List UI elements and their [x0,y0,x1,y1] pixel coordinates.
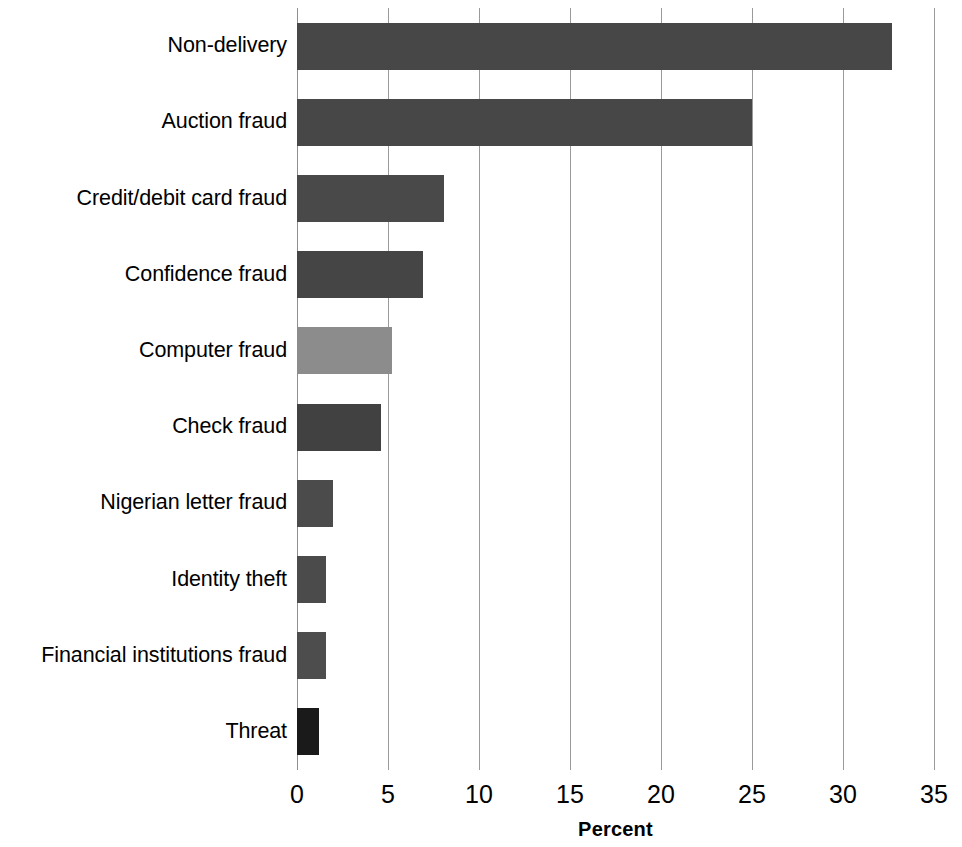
x-axis-tick-labels: 05101520253035 [297,782,934,816]
category-label: Credit/debit card fraud [2,186,287,211]
category-label: Check fraud [2,414,287,439]
category-label: Nigerian letter fraud [2,490,287,515]
x-tick-label-10: 10 [465,782,493,807]
x-tick-label-0: 0 [290,782,304,807]
category-axis-labels: Non-deliveryAuction fraudCredit/debit ca… [0,8,287,770]
gridline-35 [934,8,935,770]
plot-area [297,8,934,770]
category-label: Threat [2,719,287,744]
category-label: Identity theft [2,567,287,592]
category-label: Computer fraud [2,338,287,363]
bar [297,251,423,298]
x-tick-label-5: 5 [381,782,395,807]
bar [297,708,319,755]
bar [297,556,326,603]
category-label: Confidence fraud [2,262,287,287]
category-label: Non-delivery [2,33,287,58]
bar [297,175,444,222]
bar [297,480,333,527]
x-axis-title: Percent [297,818,934,841]
gridline-30 [843,8,844,770]
bar [297,632,326,679]
bar [297,327,392,374]
bar [297,404,381,451]
category-label: Financial institutions fraud [2,643,287,668]
category-label: Auction fraud [2,109,287,134]
chart-figure: Non-deliveryAuction fraudCredit/debit ca… [0,0,962,847]
bar [297,23,892,70]
x-tick-label-20: 20 [647,782,675,807]
x-tick-label-30: 30 [829,782,857,807]
x-tick-label-35: 35 [920,782,948,807]
gridline-25 [752,8,753,770]
x-tick-label-25: 25 [738,782,766,807]
x-tick-label-15: 15 [556,782,584,807]
bar [297,99,752,146]
